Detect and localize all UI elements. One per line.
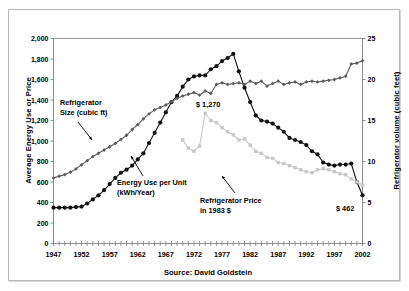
- annotation-refrigerator-size: Refrigerator Size (cubic ft): [60, 98, 107, 118]
- series-marker-1: [158, 105, 162, 109]
- y-tick-label-left: 1,000: [31, 138, 49, 146]
- annotation-price-line1: Refrigerator Price: [200, 196, 262, 206]
- annotation-end-price-value: $ 462: [336, 204, 354, 214]
- series-marker-0: [147, 141, 151, 145]
- series-marker-0: [349, 161, 353, 165]
- chart-plot-area: 02004006008001,0001,2001,4001,6001,8002,…: [0, 0, 409, 291]
- series-marker-0: [276, 126, 280, 130]
- series-marker-0: [248, 100, 252, 104]
- series-marker-0: [158, 120, 162, 124]
- y-tick-label-right: 20: [368, 76, 376, 83]
- series-marker-0: [51, 206, 55, 210]
- series-marker-2: [192, 150, 195, 153]
- series-marker-0: [108, 182, 112, 186]
- series-marker-2: [350, 177, 353, 180]
- series-marker-1: [333, 78, 337, 82]
- series-marker-0: [338, 162, 342, 166]
- series-marker-2: [361, 183, 364, 186]
- series-marker-2: [288, 164, 291, 167]
- y-tick-label-left: 400: [37, 199, 49, 206]
- chart-figure: 02004006008001,0001,2001,4001,6001,8002,…: [0, 0, 409, 291]
- series-marker-1: [344, 74, 348, 78]
- series-marker-2: [277, 161, 280, 164]
- y-tick-label-right: 5: [368, 199, 372, 206]
- series-marker-0: [74, 205, 78, 209]
- series-marker-1: [361, 59, 365, 63]
- x-tick-label: 1957: [102, 250, 118, 259]
- series-marker-2: [321, 167, 324, 170]
- series-marker-0: [360, 193, 364, 197]
- series-marker-2: [327, 168, 330, 171]
- x-tick-label: 1947: [46, 250, 62, 259]
- series-marker-2: [310, 171, 313, 174]
- x-tick-label: 1967: [158, 250, 174, 259]
- x-tick-label: 2002: [355, 250, 371, 259]
- series-marker-2: [355, 180, 358, 183]
- y-tick-label-left: 800: [37, 158, 49, 165]
- x-tick-label: 1952: [74, 250, 90, 259]
- series-marker-1: [181, 94, 185, 98]
- y-tick-label-left: 1,200: [31, 117, 49, 125]
- series-marker-1: [316, 80, 320, 84]
- series-marker-1: [338, 76, 342, 80]
- annotation-peak-price-value: $ 1,270: [196, 100, 220, 110]
- series-marker-0: [102, 188, 106, 192]
- x-tick-label: 1982: [242, 250, 258, 259]
- series-marker-2: [232, 133, 235, 136]
- series-marker-0: [315, 152, 319, 156]
- series-marker-1: [57, 174, 61, 178]
- series-marker-0: [259, 118, 263, 122]
- series-marker-2: [243, 137, 246, 140]
- series-marker-1: [310, 79, 314, 83]
- series-marker-1: [226, 83, 230, 87]
- annotation-size-line1: Refrigerator: [60, 98, 107, 108]
- series-marker-0: [91, 197, 95, 201]
- y-tick-label-left: 1,800: [31, 56, 49, 64]
- series-marker-2: [265, 156, 268, 159]
- series-marker-1: [220, 81, 224, 85]
- series-line-0: [54, 54, 363, 208]
- series-marker-1: [304, 80, 308, 84]
- series-marker-2: [271, 157, 274, 160]
- series-marker-0: [299, 140, 303, 144]
- x-tick-label: 1977: [214, 250, 230, 259]
- series-marker-0: [214, 64, 218, 68]
- series-marker-1: [237, 81, 241, 85]
- series-marker-2: [209, 119, 212, 122]
- series-marker-0: [119, 171, 123, 175]
- annotation-refrigerator-price: Refrigerator Price in 1983 $: [200, 196, 262, 216]
- y-tick-label-left: 0: [45, 240, 49, 247]
- series-marker-0: [226, 56, 230, 60]
- series-marker-0: [85, 201, 89, 205]
- series-marker-0: [63, 206, 67, 210]
- series-marker-2: [226, 130, 229, 133]
- series-marker-0: [271, 121, 275, 125]
- series-marker-0: [68, 206, 72, 210]
- series-marker-1: [299, 83, 303, 87]
- series-marker-2: [316, 168, 319, 171]
- series-marker-0: [79, 205, 83, 209]
- series-line-1: [54, 61, 363, 178]
- series-marker-0: [57, 206, 61, 210]
- annotation-price-leader: [222, 176, 235, 193]
- source-note: Source: David Goldstein: [53, 268, 363, 277]
- annotation-price-line2: in 1983 $: [200, 206, 262, 216]
- series-marker-0: [192, 74, 196, 78]
- series-marker-1: [293, 80, 297, 84]
- series-marker-2: [338, 172, 341, 175]
- annotation-size-line2: Size (cubic ft): [60, 108, 107, 118]
- y-tick-label-left: 1,600: [31, 76, 49, 84]
- series-marker-2: [344, 173, 347, 176]
- y-tick-label-left: 200: [37, 220, 49, 227]
- series-marker-0: [197, 73, 201, 77]
- series-marker-2: [248, 143, 251, 146]
- series-marker-1: [349, 62, 353, 66]
- series-marker-0: [254, 113, 258, 117]
- series-marker-2: [333, 170, 336, 173]
- x-tick-label: 1962: [130, 250, 146, 259]
- series-marker-1: [271, 82, 275, 86]
- x-tick-label: 1997: [326, 250, 342, 259]
- series-marker-2: [299, 168, 302, 171]
- y-tick-label-left: 2,000: [31, 35, 49, 43]
- x-tick-label: 1987: [270, 250, 286, 259]
